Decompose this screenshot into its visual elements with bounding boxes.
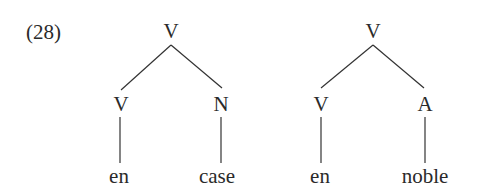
tree-1-left-leaf: en	[109, 166, 129, 187]
tree-2-left-leaf: en	[310, 166, 330, 187]
tree-1-left-node: V	[113, 94, 128, 115]
tree-2-left-node: V	[313, 94, 328, 115]
tree-1-right-leaf: case	[199, 166, 235, 187]
tree-2-root-node: V	[365, 21, 380, 42]
tree-1-root-node: V	[163, 21, 178, 42]
tree-1-right-node: N	[213, 94, 228, 115]
tree-2-right-leaf: noble	[402, 166, 449, 187]
tree-2-right-node: A	[417, 94, 432, 115]
